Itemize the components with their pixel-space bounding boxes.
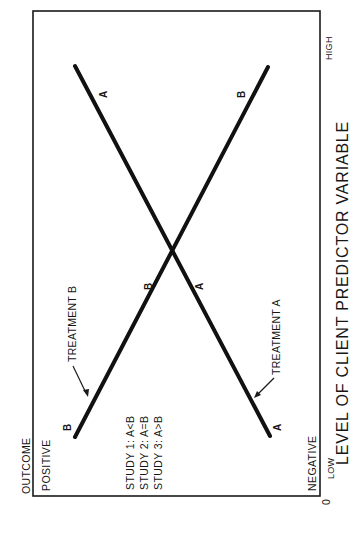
- origin-label: 0: [320, 499, 332, 505]
- treatment-a-label: TREATMENT A: [270, 299, 282, 375]
- interaction-diagram: OUTCOME POSITIVE NEGATIVE 0 LOW LEVEL OF…: [0, 0, 360, 539]
- y-axis-negative-label: NEGATIVE: [306, 435, 318, 491]
- plot-frame: [33, 11, 320, 496]
- treatment-b-label: TREATMENT B: [66, 286, 78, 362]
- y-axis-title: OUTCOME: [20, 438, 32, 494]
- point-label-b-mid: B: [143, 283, 154, 290]
- treatment-b-arrow-icon: [73, 366, 89, 397]
- x-axis-high-label: HIGH: [324, 36, 334, 60]
- study-legend: STUDY 1: A<B STUDY 2: A=B STUDY 3: A>B: [124, 416, 164, 490]
- treatment-a-arrow-icon: [254, 378, 274, 398]
- study-3-label: STUDY 3: A>B: [152, 416, 164, 490]
- point-label-a-mid: A: [194, 283, 205, 290]
- point-label-b-end: B: [236, 91, 247, 98]
- study-2-label: STUDY 2: A=B: [138, 416, 150, 490]
- study-1-label: STUDY 1: A<B: [124, 416, 136, 490]
- point-label-a-end: A: [98, 91, 109, 98]
- y-axis-positive-label: POSITIVE: [40, 439, 52, 491]
- point-label-a-start: A: [272, 424, 283, 431]
- point-label-b-start: B: [62, 424, 73, 431]
- x-axis-title: LEVEL OF CLIENT PREDICTOR VARIABLE: [334, 121, 351, 465]
